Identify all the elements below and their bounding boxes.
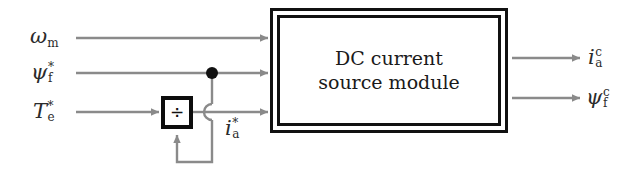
label-torque-ref: T*e (33, 100, 55, 123)
supsub-psi-f-measured: cf (603, 86, 610, 109)
module-inner-frame: DC current source module (277, 15, 501, 126)
label-ia-ref: i*a (225, 117, 239, 140)
diagram-canvas: DC current source module ÷ ωm ψ*f T*e i*… (0, 0, 625, 174)
division-block[interactable]: ÷ (161, 96, 193, 129)
module-label-line2: source module (318, 71, 460, 93)
junction-dot (206, 67, 218, 79)
dc-current-source-module[interactable]: DC current source module (270, 8, 508, 133)
module-label: DC current source module (318, 47, 460, 95)
module-label-line1: DC current (335, 47, 443, 69)
supsub-psi-f-ref: *f (48, 61, 54, 84)
label-psi-f-ref: ψ*f (31, 61, 54, 84)
supsub-ia-measured: ca (595, 46, 602, 69)
supsub-ia-ref: *a (232, 117, 239, 140)
division-symbol: ÷ (165, 100, 189, 125)
label-ia-measured: ica (588, 46, 602, 69)
label-psi-f-measured: ψcf (586, 86, 610, 109)
supsub-torque-ref: *e (48, 100, 55, 123)
label-omega-m: ωm (30, 26, 59, 49)
